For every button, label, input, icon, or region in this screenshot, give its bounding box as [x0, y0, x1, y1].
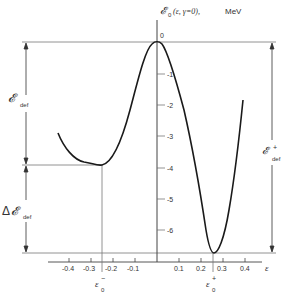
dedef-subscript: def: [23, 214, 32, 220]
y-tick-label: -1: [167, 71, 173, 78]
x-axis-label: ε: [265, 263, 269, 273]
edefplus-symbol: 𝓔: [262, 145, 271, 156]
y-axis-args: (ε, γ=0),: [173, 7, 200, 16]
x-tick-label: 0.3: [217, 265, 227, 272]
edefplus-sup: +: [273, 144, 277, 151]
eps-minus-sup: −: [101, 275, 105, 282]
dedef-delta: Δ: [2, 204, 10, 218]
eps-minus-sub: 0: [101, 287, 105, 293]
edefplus-subscript: def: [272, 156, 281, 162]
y-axis-unit: MeV: [225, 7, 242, 16]
edef-symbol: 𝓔: [8, 91, 18, 105]
eps-plus-label: ε: [206, 279, 210, 289]
dedef-dimension: [24, 166, 28, 252]
x-tick-label: -0.4: [62, 265, 74, 272]
eps-plus-sup: +: [212, 275, 216, 282]
edef-subscript: def: [20, 102, 29, 108]
x-tick-label: 0.1: [174, 265, 184, 272]
y-tick-label: 0: [160, 32, 164, 39]
eps-minus-label: ε: [95, 279, 99, 289]
y-ticks: [157, 74, 165, 230]
x-tick-label: 0.4: [240, 265, 250, 272]
eps-plus-sub: 0: [212, 287, 216, 293]
y-tick-label: -5: [167, 196, 173, 203]
chart-canvas: 𝓔 0 (ε, γ=0), MeV 0 -1 -2 -3 -4 -5 -6 -0…: [0, 0, 294, 299]
y-tick-label: -2: [167, 102, 173, 109]
x-tick-label: -0.2: [105, 265, 117, 272]
x-tick-label: 0.2: [196, 265, 206, 272]
y-tick-label: -6: [167, 227, 173, 234]
y-axis-subscript: 0: [168, 12, 172, 18]
energy-curve: [58, 42, 243, 253]
dedef-symbol: 𝓔: [11, 204, 21, 218]
y-tick-label: -4: [167, 165, 173, 172]
y-tick-label: -3: [167, 133, 173, 140]
x-tick-label: -0.3: [83, 265, 95, 272]
x-tick-label: -0.1: [127, 265, 139, 272]
